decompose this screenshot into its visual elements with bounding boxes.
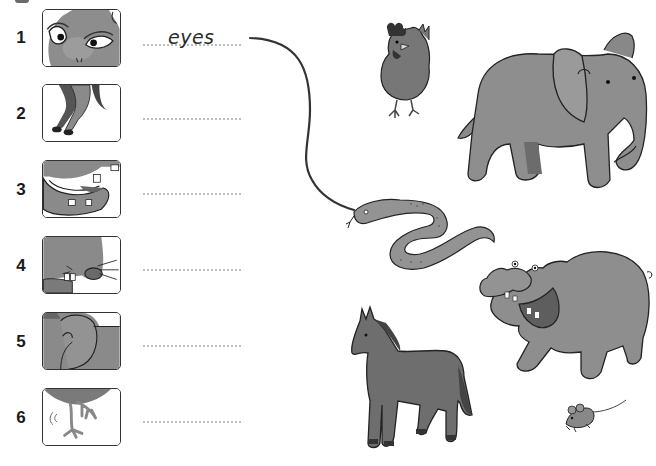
answer-line-6[interactable] (143, 421, 241, 423)
horse-icon (350, 305, 474, 450)
elephant-picture[interactable] (458, 24, 653, 192)
row-number-3: 3 (13, 180, 29, 200)
hen-picture[interactable] (375, 22, 435, 122)
mouse-picture[interactable] (562, 398, 628, 434)
picture-ear (42, 312, 121, 370)
row-number-4: 4 (13, 256, 29, 276)
snake-icon (340, 182, 500, 272)
exercise-badge-fragment (15, 0, 29, 3)
mouse-icon (562, 398, 628, 434)
answer-text-1: eyes (168, 26, 215, 48)
hippo-icon (477, 242, 653, 380)
row-number-5: 5 (13, 332, 29, 352)
answer-line-3[interactable] (143, 193, 241, 195)
nose-whiskers-icon (43, 237, 120, 293)
hooves-icon (43, 85, 120, 141)
ear-icon (43, 313, 120, 369)
row-number-1: 1 (13, 28, 29, 48)
horse-picture[interactable] (350, 305, 474, 450)
answer-line-4[interactable] (143, 269, 241, 271)
row-number-6: 6 (13, 408, 29, 428)
answer-line-5[interactable] (143, 345, 241, 347)
row-number-2: 2 (13, 104, 29, 124)
picture-mouth (42, 160, 121, 218)
claws-icon (43, 389, 120, 445)
picture-eyes (42, 9, 121, 67)
snake-picture[interactable] (340, 182, 500, 272)
picture-claws (42, 388, 121, 446)
picture-legs (42, 84, 121, 142)
hen-icon (375, 22, 435, 122)
mouth-teeth-icon (43, 161, 120, 217)
answer-line-2[interactable] (143, 118, 241, 120)
elephant-icon (458, 24, 653, 192)
hippo-picture[interactable] (477, 242, 653, 380)
eyes-icon (43, 10, 120, 66)
picture-nose (42, 236, 121, 294)
